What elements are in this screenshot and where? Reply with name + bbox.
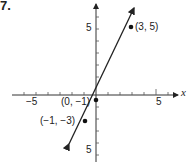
point-3-5: [129, 25, 134, 30]
point-label-neg1-neg3: (−1, −3): [40, 116, 75, 126]
point-neg1-neg3: [83, 119, 88, 124]
point-0-neg1: [94, 98, 99, 103]
graph-line: [69, 8, 134, 144]
x-tick-label-5: 5: [156, 97, 162, 107]
coordinate-plane: [0, 0, 190, 164]
y-tick-label-5: 5: [86, 23, 92, 33]
x-axis-label: x: [181, 87, 186, 97]
point-label-3-5: (3, 5): [135, 22, 158, 32]
point-label-0-neg1: (0, −1): [61, 97, 90, 107]
y-tick-label-neg5: 5: [86, 145, 92, 155]
x-tick-label-neg5: −5: [26, 97, 37, 107]
